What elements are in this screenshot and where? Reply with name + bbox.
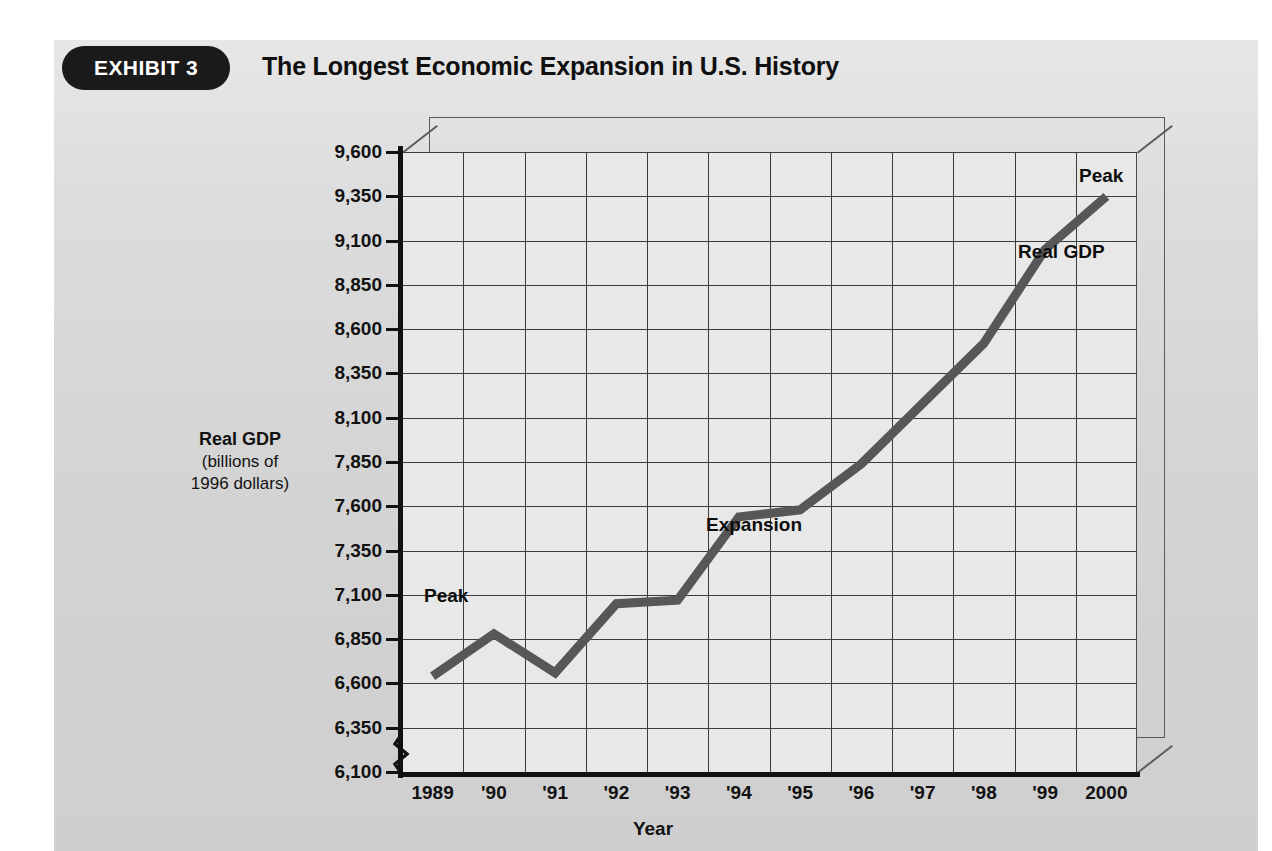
y-axis-tick-labels: 6,1006,3506,6006,8507,1007,3507,6007,850…	[278, 0, 382, 851]
y-axis-tick	[386, 372, 400, 375]
y-axis-tick-label: 6,600	[282, 672, 382, 694]
gdp-polyline	[433, 196, 1107, 676]
y-axis-tick	[386, 638, 400, 641]
y-axis-tick-label: 8,850	[282, 274, 382, 296]
y-axis-tick-label: 9,600	[282, 141, 382, 163]
y-axis-tick	[386, 550, 400, 553]
y-axis-tick-label: 7,350	[282, 540, 382, 562]
y-axis-tick	[386, 682, 400, 685]
y-axis-tick-label: 9,350	[282, 185, 382, 207]
y-axis-tick	[386, 771, 400, 774]
y-axis-tick-label: 8,600	[282, 318, 382, 340]
y-axis-tick	[386, 417, 400, 420]
annotation-expansion: Expansion	[706, 514, 802, 536]
y-axis-title-line2: (billions of	[168, 451, 312, 473]
y-axis-tick	[386, 195, 400, 198]
exhibit-badge-label: EXHIBIT 3	[94, 56, 198, 80]
page-margin-top	[0, 0, 1272, 40]
chart-depth-edge-bottom-right	[1137, 745, 1173, 773]
y-axis-tick-label: 8,350	[282, 362, 382, 384]
y-axis-tick	[386, 240, 400, 243]
y-axis-title: Real GDP (billions of 1996 dollars)	[168, 428, 312, 495]
x-axis-tick-labels: 1989'90'91'92'93'94'95'96'97'98'992000	[402, 782, 1137, 812]
y-axis-tick	[386, 328, 400, 331]
x-axis-tick-label: 2000	[1061, 782, 1151, 804]
x-axis	[398, 772, 1140, 777]
annotation-peak-right: Peak	[1079, 165, 1123, 187]
y-axis-tick-label: 6,850	[282, 628, 382, 650]
y-axis-tick	[386, 284, 400, 287]
y-axis-tick	[386, 594, 400, 597]
y-axis-title-line1: Real GDP	[168, 428, 312, 451]
y-axis-tick-label: 8,100	[282, 407, 382, 429]
x-axis-title: Year	[633, 818, 673, 840]
page-margin-right	[1258, 0, 1272, 851]
y-axis-tick-label: 6,100	[282, 761, 382, 783]
y-axis-tick-label: 7,600	[282, 495, 382, 517]
y-axis-tick-label: 6,350	[282, 717, 382, 739]
exhibit-page: EXHIBIT 3 The Longest Economic Expansion…	[0, 0, 1272, 851]
x-axis-title-wrap: Year	[0, 818, 1272, 840]
page-margin-left	[0, 0, 54, 851]
y-axis-tick	[386, 461, 400, 464]
y-axis-tick	[386, 727, 400, 730]
annotation-peak-left: Peak	[424, 585, 468, 607]
exhibit-badge: EXHIBIT 3	[62, 46, 230, 90]
y-axis-tick	[386, 505, 400, 508]
y-axis-title-line3: 1996 dollars)	[168, 473, 312, 495]
y-axis-tick	[386, 151, 400, 154]
y-axis-tick-label: 9,100	[282, 230, 382, 252]
annotation-series-label: Real GDP	[1018, 241, 1105, 263]
y-axis-tick-label: 7,100	[282, 584, 382, 606]
